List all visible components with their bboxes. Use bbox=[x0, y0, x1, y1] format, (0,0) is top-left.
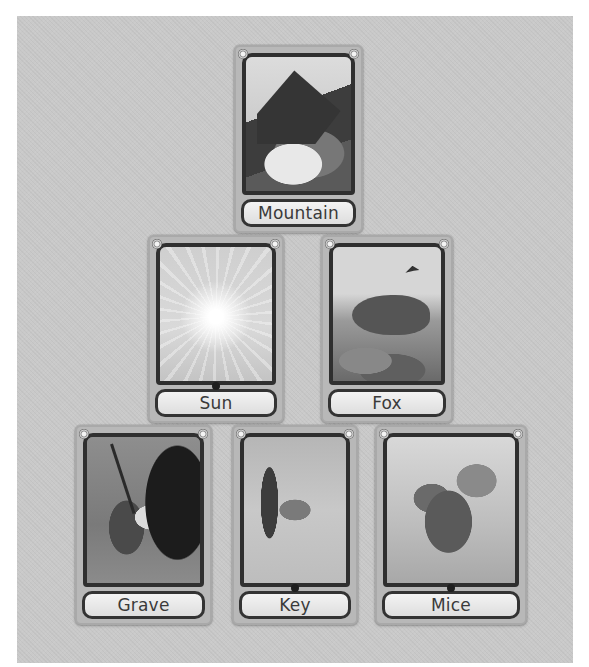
card-art-frame bbox=[83, 433, 204, 587]
card-board: Mountain Sun Fox Grave Key bbox=[17, 16, 573, 663]
fox-illustration bbox=[333, 247, 441, 381]
card-fox[interactable]: Fox bbox=[321, 235, 453, 423]
card-key[interactable]: Key bbox=[232, 425, 358, 625]
card-art-frame bbox=[329, 243, 445, 385]
mice-illustration bbox=[387, 437, 515, 583]
corner-rivet-icon bbox=[79, 429, 89, 439]
corner-rivet-icon bbox=[439, 239, 449, 249]
grave-illustration bbox=[87, 437, 200, 583]
gem-icon bbox=[291, 584, 299, 592]
sun-illustration bbox=[160, 247, 272, 381]
card-art-frame bbox=[240, 433, 350, 587]
gem-icon bbox=[212, 382, 220, 390]
mountain-illustration bbox=[246, 57, 351, 191]
card-art-frame bbox=[383, 433, 519, 587]
key-illustration bbox=[244, 437, 346, 583]
corner-rivet-icon bbox=[198, 429, 208, 439]
corner-rivet-icon bbox=[238, 49, 248, 59]
card-label: Key bbox=[239, 591, 351, 619]
corner-rivet-icon bbox=[349, 49, 359, 59]
card-label: Mountain bbox=[241, 199, 356, 227]
corner-rivet-icon bbox=[270, 239, 280, 249]
card-grave[interactable]: Grave bbox=[75, 425, 212, 625]
card-mountain[interactable]: Mountain bbox=[234, 45, 363, 233]
corner-rivet-icon bbox=[379, 429, 389, 439]
card-art-frame bbox=[242, 53, 355, 195]
card-label: Sun bbox=[155, 389, 277, 417]
card-label: Grave bbox=[82, 591, 205, 619]
card-art-frame bbox=[156, 243, 276, 385]
card-label: Fox bbox=[328, 389, 446, 417]
card-mice[interactable]: Mice bbox=[375, 425, 527, 625]
card-sun[interactable]: Sun bbox=[148, 235, 284, 423]
corner-rivet-icon bbox=[513, 429, 523, 439]
corner-rivet-icon bbox=[344, 429, 354, 439]
corner-rivet-icon bbox=[236, 429, 246, 439]
gem-icon bbox=[447, 584, 455, 592]
card-label: Mice bbox=[382, 591, 520, 619]
corner-rivet-icon bbox=[152, 239, 162, 249]
corner-rivet-icon bbox=[325, 239, 335, 249]
